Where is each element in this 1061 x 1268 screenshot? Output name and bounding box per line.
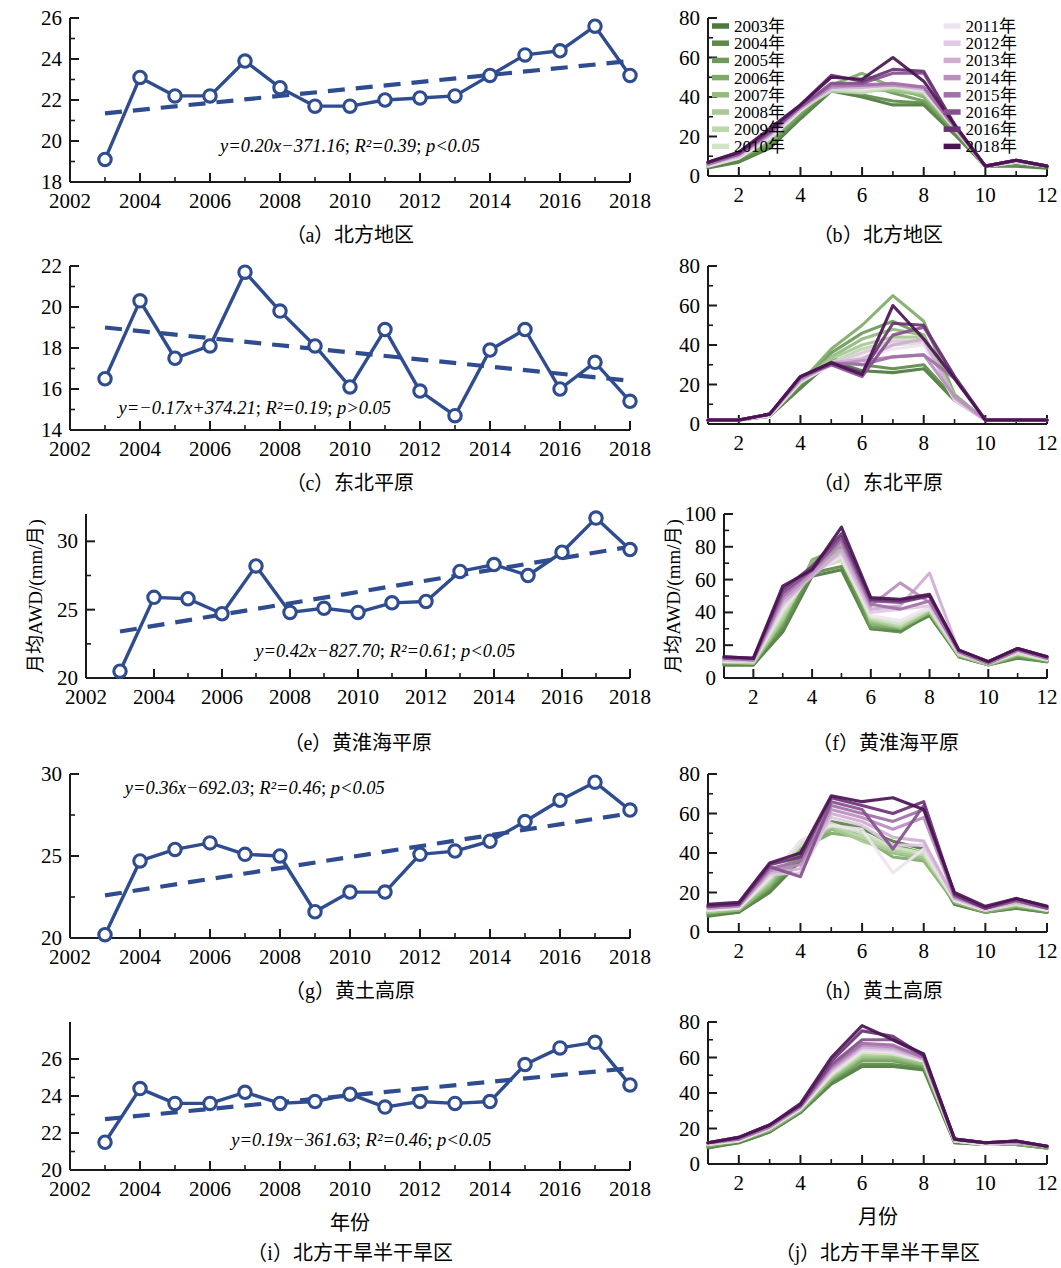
y-tick-label: 20 (679, 881, 700, 905)
x-tick-label: 2012 (399, 189, 441, 213)
data-point-marker (554, 45, 566, 57)
data-point-marker (148, 591, 160, 603)
data-point-marker (309, 100, 321, 112)
x-tick-label: 2008 (259, 945, 301, 969)
data-point-marker (624, 804, 636, 816)
monthly-series-2014 (708, 355, 1047, 420)
panel-caption: （b）北方地区 (813, 224, 943, 246)
trend-line (105, 1068, 630, 1119)
x-tick-label: 2012 (405, 685, 447, 709)
x-tick-label: 2002 (49, 945, 91, 969)
x-tick-label: 2014 (473, 685, 516, 709)
x-tick-label: 6 (866, 685, 877, 709)
y-tick-label: 60 (695, 568, 716, 592)
data-point-marker (624, 1079, 636, 1091)
x-tick-label: 2014 (469, 945, 512, 969)
y-tick-label: 40 (679, 85, 700, 109)
data-point-marker (204, 837, 216, 849)
data-point-marker (169, 843, 181, 855)
data-point-marker (169, 90, 181, 102)
legend-label-2004年: 2004年 (734, 34, 785, 53)
data-point-marker (239, 55, 251, 67)
x-tick-label: 2006 (189, 437, 231, 461)
panel-caption: （h）黄土高原 (813, 980, 943, 1002)
x-tick-label: 2016 (541, 685, 583, 709)
legend-label-2003年: 2003年 (734, 17, 785, 36)
x-tick-label: 2006 (201, 685, 243, 709)
x-tick-label: 2014 (469, 1177, 512, 1201)
data-point-marker (204, 340, 216, 352)
monthly-series-2013 (708, 339, 1047, 420)
data-point-marker (379, 323, 391, 335)
x-tick-label: 2018 (609, 945, 651, 969)
data-point-marker (379, 886, 391, 898)
data-point-marker (624, 395, 636, 407)
y-tick-label: 40 (679, 333, 700, 357)
data-point-marker (309, 1095, 321, 1107)
data-point-marker (344, 381, 356, 393)
x-tick-label: 2002 (49, 189, 91, 213)
data-point-marker (414, 1095, 426, 1107)
data-point-marker (519, 1058, 531, 1070)
x-tick-label: 2010 (329, 945, 371, 969)
data-point-marker (134, 1082, 146, 1094)
x-tick-label: 10 (975, 431, 996, 455)
data-point-marker (519, 323, 531, 335)
x-tick-label: 12 (1037, 431, 1058, 455)
x-tick-label: 4 (795, 431, 806, 455)
data-point-marker (590, 512, 602, 524)
x-tick-label: 2010 (337, 685, 379, 709)
y-tick-label: 30 (57, 529, 78, 553)
y-tick-label: 40 (695, 600, 716, 624)
x-tick-label: 2010 (329, 1177, 371, 1201)
panel-caption: （c）东北平原 (286, 472, 415, 494)
y-axis-label: 月均AWD/(mm/月) (663, 519, 685, 673)
legend-label-r1: 2012年 (966, 34, 1017, 53)
data-point-marker (488, 558, 500, 570)
y-tick-label: 80 (695, 535, 716, 559)
x-tick-label: 6 (857, 183, 868, 207)
data-point-marker (589, 776, 601, 788)
x-axis-label: 年份 (330, 1212, 370, 1234)
x-axis-label: 月份 (858, 1206, 898, 1228)
y-tick-label: 18 (41, 336, 62, 360)
data-point-marker (318, 602, 330, 614)
data-point-marker (114, 665, 126, 677)
x-tick-label: 2004 (133, 685, 176, 709)
panel-c: 1416182022200220042006200820102012201420… (8, 252, 648, 496)
data-point-marker (274, 305, 286, 317)
y-tick-label: 0 (690, 164, 701, 188)
y-tick-label: 20 (679, 1117, 700, 1141)
data-point-marker (414, 848, 426, 860)
y-tick-label: 40 (679, 841, 700, 865)
x-tick-label: 2004 (119, 437, 162, 461)
legend-label-2006年: 2006年 (734, 69, 785, 88)
x-tick-label: 2010 (329, 189, 371, 213)
data-point-marker (386, 597, 398, 609)
x-tick-label: 2 (734, 183, 745, 207)
data-point-marker (449, 409, 461, 421)
y-tick-label: 20 (679, 125, 700, 149)
x-tick-label: 2 (734, 939, 745, 963)
x-tick-label: 4 (795, 183, 806, 207)
annual-awd-line (105, 782, 630, 935)
regression-equation: y=−0.17x+374.21; R²=0.19; p>0.05 (117, 398, 391, 418)
annual-awd-line (105, 272, 630, 416)
x-tick-label: 2016 (539, 945, 581, 969)
y-tick-label: 24 (41, 47, 63, 71)
data-point-marker (420, 595, 432, 607)
legend-label-2005年: 2005年 (734, 51, 785, 70)
data-point-marker (284, 606, 296, 618)
x-tick-label: 2016 (539, 437, 581, 461)
panel-i: 2022242620022004200620082010201220142016… (8, 1008, 648, 1266)
panel-b: 02040608024681012（b）北方地区2003年2004年2005年2… (648, 4, 1061, 248)
y-tick-label: 60 (679, 46, 700, 70)
data-point-marker (414, 385, 426, 397)
data-point-marker (344, 886, 356, 898)
y-tick-label: 80 (679, 6, 700, 30)
legend-label-r5: 2016年 (966, 103, 1017, 122)
panel-d: 02040608024681012（d）东北平原 (648, 252, 1061, 496)
y-tick-label: 80 (679, 1010, 700, 1034)
y-tick-label: 80 (679, 254, 700, 278)
y-tick-label: 30 (41, 762, 62, 786)
